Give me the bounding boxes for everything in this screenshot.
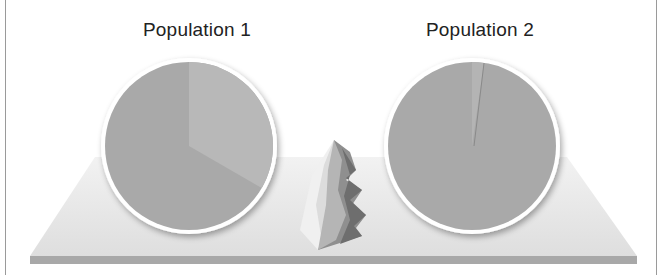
illustration	[0, 0, 662, 275]
pie-population-2	[384, 58, 560, 234]
pie-population-1	[101, 58, 277, 234]
mountain-icon	[300, 140, 366, 250]
figure-frame: Population 1 Population 2	[0, 0, 662, 275]
population-2-label: Population 2	[380, 19, 580, 41]
population-1-label: Population 1	[97, 19, 297, 41]
